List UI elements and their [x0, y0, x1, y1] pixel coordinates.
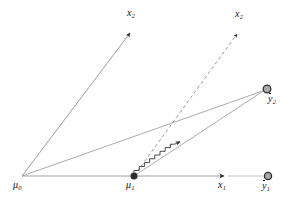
label-ybar2: y2: [268, 94, 276, 104]
label-mu0: μ0: [13, 180, 21, 190]
zigzag-arrow-head: [175, 142, 180, 145]
point-mu1-dot: [131, 173, 138, 180]
axis-x2-left: [22, 33, 130, 176]
vector-geometry-figure: μ0 μ1 x1 x2 x2 y1 y2: [0, 0, 295, 204]
point-ybar1-dot: [264, 172, 271, 179]
label-ybar1: y1: [262, 181, 270, 191]
label-x1: x1: [218, 180, 226, 190]
label-mu1: μ1: [126, 180, 134, 190]
zigzag-staircase-path: [134, 144, 175, 176]
line-mu1-to-ybar2: [134, 91, 264, 177]
diagram-canvas: [0, 0, 295, 204]
axis-x2-right-dashed: [134, 34, 237, 176]
label-x2-left: x2: [127, 8, 135, 18]
label-x2-right: x2: [235, 9, 243, 19]
line-mu0-to-ybar2: [22, 91, 264, 177]
